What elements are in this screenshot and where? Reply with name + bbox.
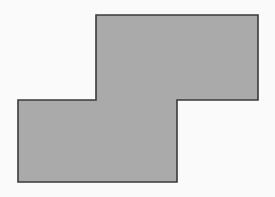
shape-svg <box>0 0 275 197</box>
figure-canvas <box>0 0 275 197</box>
